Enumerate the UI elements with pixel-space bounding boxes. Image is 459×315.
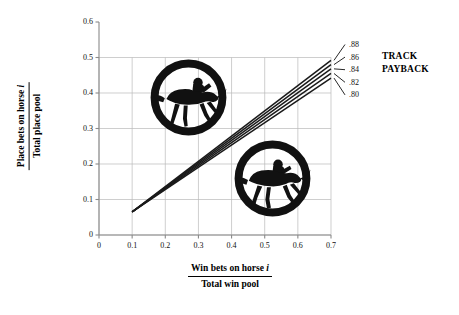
y-tick-label: 0.1 <box>71 195 93 204</box>
chart-figure: Place bets on horse i Total place pool W… <box>0 0 459 315</box>
x-tick-label: 0.5 <box>254 241 276 250</box>
y-axis-title-numerator: Place bets on horse i <box>16 85 26 167</box>
x-tick-label: 0.7 <box>320 241 342 250</box>
legend-title-line1: TRACK <box>382 50 429 63</box>
y-axis-title: Place bets on horse i Total place pool <box>6 28 52 224</box>
x-tick-label: 0.6 <box>287 241 309 250</box>
x-tick-label: 0.4 <box>221 241 243 250</box>
y-tick-label: 0.3 <box>71 124 93 133</box>
horse-jockey-badge-icon-bottom <box>233 139 312 218</box>
x-axis-title-numerator: Win bets on horse i <box>191 263 269 273</box>
legend-label-80: .80 <box>349 90 359 99</box>
legend-label-86: .86 <box>349 53 359 62</box>
x-tick-label: 0.2 <box>154 241 176 250</box>
y-tick-label: 0 <box>71 230 93 239</box>
y-tick-label: 0.5 <box>71 53 93 62</box>
x-tick-label: 0 <box>88 241 110 250</box>
x-axis-title: Win bets on horse i Total win pool <box>110 262 350 291</box>
horse-jockey-badge-icon-top <box>149 58 228 137</box>
x-tick-label: 0.3 <box>187 241 209 250</box>
y-tick-label: 0.4 <box>71 88 93 97</box>
legend-leader-lines <box>334 45 345 95</box>
legend-label-88: .88 <box>349 40 359 49</box>
y-axis-title-denominator: Total place pool <box>29 82 43 170</box>
x-tick-label: 0.1 <box>121 241 143 250</box>
x-axis-title-denominator: Total win pool <box>188 277 272 291</box>
legend-label-84: .84 <box>349 65 359 74</box>
legend-title-line2: PAYBACK <box>382 63 429 76</box>
y-tick-label: 0.6 <box>71 17 93 26</box>
y-tick-label: 0.2 <box>71 159 93 168</box>
leader-line <box>334 69 345 70</box>
legend-label-82: .82 <box>349 78 359 87</box>
legend-title: TRACK PAYBACK <box>382 50 429 76</box>
